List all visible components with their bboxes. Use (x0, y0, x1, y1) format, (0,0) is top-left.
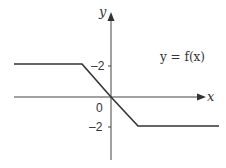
y-axis-arrow-icon (108, 12, 115, 21)
upper-tick-label: –2 (91, 59, 104, 73)
x-axis-arrow-icon (197, 94, 206, 101)
origin-label: 0 (96, 101, 103, 115)
lower-tick-label: –2 (89, 120, 102, 134)
y-axis-label: y (99, 4, 106, 19)
function-curve (14, 64, 219, 126)
chart-canvas (0, 0, 226, 168)
x-axis-label: x (207, 89, 214, 104)
function-annotation: y = f(x) (160, 50, 205, 64)
